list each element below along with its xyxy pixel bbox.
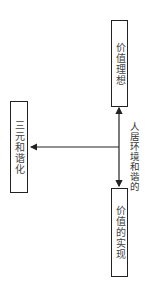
node-triple-harmonization-label: 三元和谐化 xyxy=(12,120,27,175)
center-label-line2: 人居环境 xyxy=(129,122,140,162)
node-value-ideal: 价值理想 xyxy=(111,20,128,107)
diagram-canvas: 价值理想 价值的实现 三元和谐化 人居环境和谐的 xyxy=(0,0,160,292)
center-label-line1: 和谐的 xyxy=(129,162,140,192)
node-value-ideal-label: 价值理想 xyxy=(112,42,127,86)
node-value-realization-label: 价值的实现 xyxy=(112,205,127,260)
node-value-realization: 价值的实现 xyxy=(111,188,128,277)
node-triple-harmonization: 三元和谐化 xyxy=(10,101,28,193)
center-label: 人居环境和谐的 xyxy=(128,122,140,192)
